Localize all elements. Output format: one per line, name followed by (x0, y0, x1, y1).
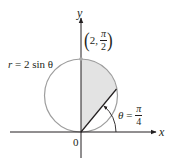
equation-equals: = (15, 58, 21, 70)
angle-num: π (135, 104, 142, 116)
angle-label: θ = π4 (118, 104, 142, 127)
equation-r: r (8, 58, 12, 70)
curve-equation-label: r = 2 sin θ (8, 59, 53, 70)
diagram-canvas (0, 0, 169, 167)
point-theta-num: π (100, 29, 107, 41)
point-r-value: 2, (90, 34, 98, 46)
point-open-paren: ( (84, 30, 90, 51)
y-axis-label: y (77, 7, 82, 19)
polar-diagram: y x 0 r = 2 sin θ (2,π2) θ = π4 (0, 0, 169, 167)
angle-var: θ (118, 109, 123, 121)
equation-rhs: 2 sin θ (24, 58, 53, 70)
point-theta-den: 2 (101, 41, 106, 52)
point-close-paren: ) (107, 30, 113, 51)
x-axis-label: x (159, 126, 164, 138)
angle-den: 4 (136, 116, 141, 127)
origin-label: 0 (73, 137, 79, 148)
angle-equals: = (126, 109, 132, 121)
point-label: (2,π2) (84, 29, 113, 52)
point-marker (79, 57, 83, 61)
point-theta-fraction: π2 (100, 29, 107, 52)
angle-fraction: π4 (135, 104, 142, 127)
